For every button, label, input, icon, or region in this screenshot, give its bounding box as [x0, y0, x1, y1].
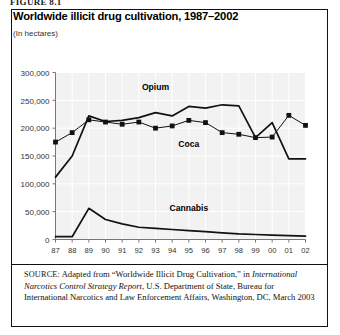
x-axis-tick-label: 91 — [118, 246, 126, 255]
series-marker-coca — [253, 135, 258, 140]
source-note: SOURCE: Adapted from “Worldwide Illicit … — [24, 269, 316, 304]
x-axis-tick-label: 00 — [268, 246, 276, 255]
series-marker-coca — [220, 130, 225, 135]
series-marker-coca — [86, 117, 91, 122]
line-chart: 300,000250,000200,000150,000100,00050,00… — [0, 0, 340, 270]
series-marker-coca — [186, 118, 191, 123]
x-axis-tick-label: 92 — [135, 246, 143, 255]
x-axis-tick-label: 96 — [201, 246, 209, 255]
series-marker-coca — [70, 130, 75, 135]
series-marker-coca — [53, 140, 58, 145]
x-axis-tick-label: 94 — [168, 246, 176, 255]
chart-plot-area: 300,000250,000200,000150,000100,00050,00… — [0, 0, 340, 270]
x-axis-tick-label: 01 — [285, 246, 293, 255]
y-axis-tick-label: 150,000 — [21, 152, 50, 161]
series-marker-coca — [120, 122, 125, 127]
x-axis-tick-label: 93 — [151, 246, 159, 255]
series-label-opium: Opium — [142, 82, 170, 92]
series-marker-coca — [286, 113, 291, 118]
y-axis-tick-label: 100,000 — [21, 180, 50, 189]
series-marker-coca — [270, 135, 275, 140]
series-marker-coca — [236, 132, 241, 137]
x-axis-tick-label: 88 — [68, 246, 76, 255]
series-marker-coca — [103, 120, 108, 125]
x-axis-tick-label: 89 — [85, 246, 93, 255]
series-marker-coca — [170, 124, 175, 129]
x-axis-tick-label: 87 — [51, 246, 59, 255]
x-axis-tick-label: 95 — [185, 246, 193, 255]
source-text-1: Adapted from “Worldwide Illicit Drug Cul… — [60, 269, 252, 279]
series-marker-coca — [303, 123, 308, 128]
y-axis-tick-label: 200,000 — [21, 124, 50, 133]
y-axis-tick-label: 50,000 — [25, 208, 50, 217]
series-label-cannabis: Cannabis — [169, 203, 208, 213]
x-axis-tick-label: 90 — [101, 246, 109, 255]
series-label-coca: Coca — [178, 139, 199, 149]
series-marker-coca — [136, 120, 141, 125]
series-marker-coca — [203, 120, 208, 125]
x-axis-tick-label: 97 — [218, 246, 226, 255]
source-divider — [12, 264, 327, 265]
y-axis-tick-label: 250,000 — [21, 97, 50, 106]
y-axis-tick-label: 0 — [45, 236, 50, 245]
x-axis-tick-label: 02 — [301, 246, 309, 255]
x-axis-tick-label: 98 — [235, 246, 243, 255]
source-keyword: SOURCE: — [24, 270, 60, 279]
x-axis-tick-label: 99 — [251, 246, 259, 255]
series-marker-coca — [153, 126, 158, 131]
y-axis-tick-label: 300,000 — [21, 69, 50, 78]
